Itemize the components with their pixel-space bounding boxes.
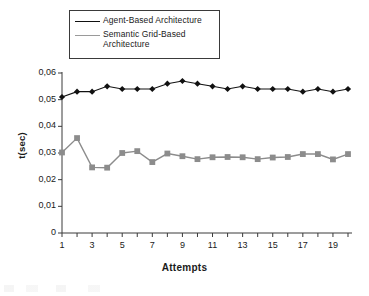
data-point-diamond	[255, 86, 261, 92]
data-point-square	[315, 151, 321, 157]
data-point-diamond	[179, 78, 185, 84]
data-point-square	[270, 155, 276, 161]
scan-edge-artifact	[4, 285, 114, 292]
data-point-diamond	[285, 86, 291, 92]
data-point-diamond	[270, 86, 276, 92]
data-point-square	[195, 156, 201, 162]
data-point-diamond	[315, 86, 321, 92]
chart-figure: Agent-Based Architecture Semantic Grid-B…	[0, 0, 369, 296]
data-point-square	[345, 151, 351, 157]
data-point-diamond	[104, 83, 110, 89]
data-point-diamond	[89, 89, 95, 95]
data-point-square	[134, 148, 140, 154]
data-point-square	[285, 154, 291, 160]
data-point-square	[89, 165, 95, 171]
data-point-square	[240, 154, 246, 160]
data-point-square	[300, 151, 306, 157]
data-point-square	[164, 151, 170, 157]
data-point-square	[104, 165, 110, 171]
data-point-square	[59, 150, 65, 156]
x-axis-title: Attempts	[0, 262, 369, 273]
series-agent-based	[59, 78, 351, 100]
plot-area	[0, 0, 369, 296]
data-point-diamond	[224, 86, 230, 92]
data-point-square	[74, 135, 80, 141]
data-point-square	[210, 154, 216, 160]
data-point-square	[255, 156, 261, 162]
data-point-diamond	[149, 86, 155, 92]
data-point-square	[119, 150, 125, 156]
data-point-diamond	[240, 83, 246, 89]
data-point-diamond	[194, 81, 200, 87]
series-line	[62, 81, 348, 97]
data-point-diamond	[74, 89, 80, 95]
series-semantic-grid-based	[59, 135, 351, 170]
data-point-square	[225, 154, 231, 160]
data-point-diamond	[134, 86, 140, 92]
data-point-diamond	[209, 83, 215, 89]
data-point-diamond	[119, 86, 125, 92]
data-point-diamond	[300, 89, 306, 95]
data-point-diamond	[345, 86, 351, 92]
data-point-square	[330, 157, 336, 163]
data-point-square	[149, 159, 155, 165]
data-point-square	[180, 153, 186, 159]
data-point-diamond	[330, 89, 336, 95]
data-point-diamond	[164, 81, 170, 87]
